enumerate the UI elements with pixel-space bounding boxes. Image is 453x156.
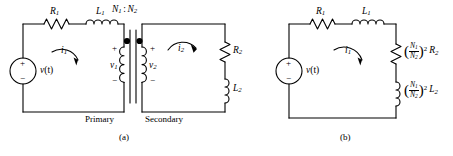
- source-minus-b: −: [286, 74, 291, 83]
- label-secondary-region: Secondary: [145, 114, 183, 124]
- v2-plus-a: +: [150, 44, 155, 53]
- source-minus-a: −: [20, 74, 25, 83]
- panel-a-transformer-core: [130, 30, 136, 103]
- label-mesh-current-i1-b: i1: [345, 46, 351, 56]
- source-plus-a: +: [20, 59, 25, 68]
- label-mesh-current-i1-a: i1: [61, 46, 67, 56]
- label-v1-a: v1: [110, 61, 118, 71]
- panel-b-loop: [276, 19, 401, 118]
- label-v2-a: v2: [149, 61, 157, 71]
- v2-minus-a: −: [150, 76, 155, 85]
- inductor-reflected-L2-b: [396, 82, 400, 106]
- label-source-b: v(t): [306, 66, 319, 76]
- secondary-winding-a: [142, 47, 146, 82]
- label-reflected-L2-b: (N1N2)2L2: [404, 81, 438, 99]
- resistor-reflected-R2-b: [391, 44, 401, 64]
- panel-a-primary-loop: [10, 19, 124, 112]
- caption-panel-a: (a): [119, 132, 129, 142]
- v1-plus-a: +: [112, 44, 117, 53]
- resistor-R2-a: [220, 42, 230, 62]
- label-source-a: v(t): [40, 66, 53, 76]
- label-R1-a: R1: [50, 7, 59, 17]
- figure-canvas: R1 L1 N1:N2 v(t) + − i1 + v1 − + v2 − i2…: [0, 0, 453, 156]
- label-L2-a: L2: [233, 84, 242, 94]
- inductor-L2-a: [225, 79, 229, 103]
- label-R1-b: R1: [316, 7, 325, 17]
- inductor-L1-b: [352, 20, 384, 24]
- source-plus-b: +: [286, 59, 291, 68]
- polarity-dot-primary: [124, 38, 130, 44]
- primary-winding-a: [120, 47, 124, 82]
- label-R2-a: R2: [233, 46, 242, 56]
- label-L1-b: L1: [362, 7, 371, 17]
- inductor-L1-a: [86, 20, 118, 24]
- label-L1-a: L1: [96, 7, 105, 17]
- label-primary-region: Primary: [85, 114, 114, 124]
- resistor-R1-b: [310, 19, 335, 29]
- resistor-R1-a: [44, 19, 69, 29]
- caption-panel-b: (b): [340, 132, 351, 142]
- circuit-artwork: [0, 0, 453, 156]
- label-mesh-current-i2-a: i2: [178, 44, 184, 54]
- label-reflected-R2-b: (N1N2)2R2: [404, 42, 438, 60]
- label-turns-ratio: N1:N2: [112, 5, 137, 15]
- v1-minus-a: −: [112, 76, 117, 85]
